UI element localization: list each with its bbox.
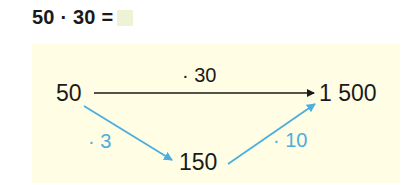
node-end: 1 500: [319, 80, 377, 106]
node-start: 50: [56, 80, 82, 106]
op-direct: · 30: [182, 64, 216, 86]
op-step1: · 3: [88, 130, 111, 152]
node-middle: 150: [179, 149, 217, 175]
op-step2: · 10: [273, 129, 307, 151]
calculation-diagram: 50 150 1 500 · 30 · 3 · 10: [0, 0, 409, 185]
